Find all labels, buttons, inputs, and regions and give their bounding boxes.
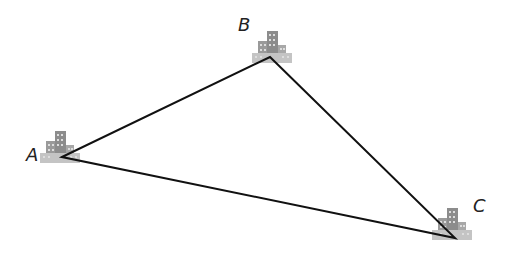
triangle-diagram bbox=[0, 0, 512, 264]
vertex-label-a: A bbox=[26, 144, 38, 165]
vertex-label-c: C bbox=[473, 195, 486, 216]
vertex-label-b: B bbox=[238, 14, 250, 35]
city-icon-a bbox=[40, 131, 80, 163]
triangle bbox=[62, 57, 455, 238]
